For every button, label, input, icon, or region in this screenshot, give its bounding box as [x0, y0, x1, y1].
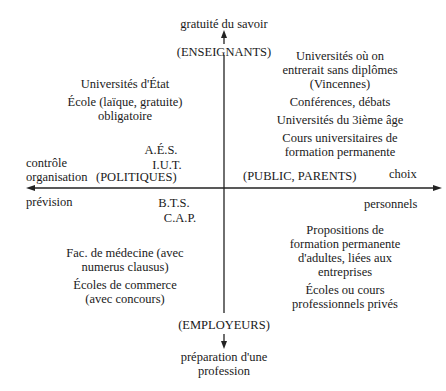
left-actor-label: (POLITIQUES) — [96, 170, 177, 184]
item-ecoles-professionnelles: Écoles ou cours professionnels privés — [255, 283, 435, 311]
item-cap: C.A.P. — [152, 211, 202, 225]
item-propositions-formation: Propositions de formation permanente d'a… — [255, 223, 435, 279]
bottom-axis-label: préparation d'une profession — [164, 350, 284, 378]
item-ecoles-commerce: Écoles de commerce (avec concours) — [40, 278, 210, 306]
arrow-down-icon — [221, 341, 227, 349]
item-universites-3ieme-age: Universités du 3ième âge — [240, 113, 440, 127]
left-axis-label-bottom: prévision — [26, 195, 73, 209]
bottom-actor-label: (EMPLOYEURS) — [164, 318, 284, 332]
item-bts: B.T.S. — [152, 196, 202, 210]
item-universites-etat: Universités d'État — [50, 77, 200, 91]
quadrant-top-left: Universités d'État École (laïque, gratui… — [50, 77, 200, 127]
right-axis-label-top: choix — [389, 167, 417, 181]
quadrant-top-right: Universités où on entrerait sans diplôme… — [240, 49, 440, 163]
right-axis-label-bottom: personnels — [364, 197, 417, 211]
item-fac-medecine: Fac. de médecine (avec numerus clausus) — [40, 246, 210, 274]
item-cours-formation-permanente: Cours universitaires de formation perman… — [240, 131, 440, 159]
near-axis-lower-left: B.T.S. C.A.P. — [152, 196, 202, 225]
right-actor-label: (PUBLIC, PARENTS) — [243, 169, 356, 183]
item-ecole-obligatoire: École (laïque, gratuite) obligatoire — [50, 95, 200, 123]
item-aes: A.É.S. — [136, 143, 186, 157]
item-iut: I.U.T. — [136, 158, 186, 172]
quadrant-bottom-right: Propositions de formation permanente d'a… — [255, 223, 435, 315]
arrow-up-icon — [221, 30, 227, 38]
item-universites-sans-diplomes: Universités où on entrerait sans diplôme… — [240, 49, 440, 91]
left-axis-label-top: contrôle organisation — [26, 156, 88, 184]
item-conferences: Conférences, débats — [240, 95, 440, 109]
arrow-right-icon — [433, 185, 442, 191]
top-axis-label: gratuité du savoir — [164, 17, 284, 31]
arrow-left-icon — [26, 185, 35, 191]
quadrant-bottom-left: Fac. de médecine (avec numerus clausus) … — [40, 246, 210, 310]
near-axis-upper-left: A.É.S. I.U.T. — [136, 143, 186, 172]
